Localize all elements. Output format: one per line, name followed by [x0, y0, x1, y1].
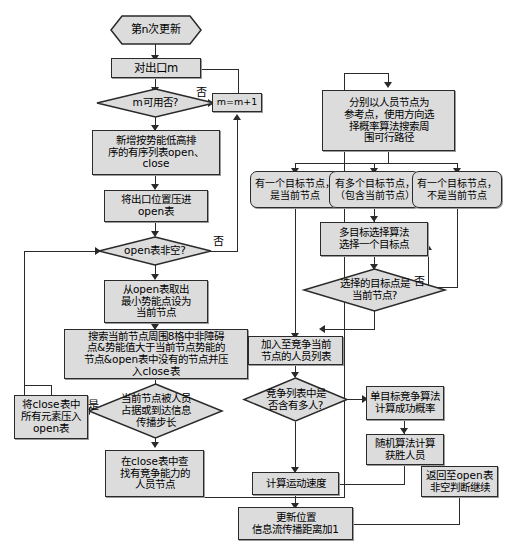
arrowhead: [384, 82, 392, 88]
node-single-prob[interactable]: 单目标竞争算法 计算成功概率: [366, 386, 444, 420]
node-random-winner[interactable]: 随机算法计算 获胜人员: [366, 434, 444, 465]
node-add-to-list[interactable]: 加入至竞争当前 节点的人员列表: [248, 336, 343, 365]
edge-many-no: [295, 422, 296, 472]
edge-dirprob-down: [388, 151, 389, 163]
edge-mincr-up: [238, 69, 239, 95]
edge-nonempty-no: [209, 251, 238, 252]
node-open-nonempty[interactable]: open表非空?: [98, 236, 212, 266]
node-many-people[interactable]: 竞争列表中是 否含有多人?: [243, 377, 348, 422]
edge-onenot-down: [457, 208, 458, 288]
node-multi-select[interactable]: 多目标选择算法 选择一个目标点: [320, 222, 428, 256]
edge-pushclose-up: [51, 385, 52, 395]
node-m-increment[interactable]: m=m+1: [212, 93, 262, 112]
edge-find-to-dirprob: [204, 497, 345, 498]
edge-onenot-join: [428, 251, 429, 252]
edge-mincr-up2: [196, 69, 239, 70]
flowchart-canvas: 第n次更新 对出口m m可用否? m=m+1 新增按势能低高排 序的有序列表op…: [0, 0, 505, 551]
node-calc-speed[interactable]: 计算运动速度: [252, 472, 339, 495]
node-many-people-label: 竞争列表中是 否含有多人?: [243, 377, 348, 422]
node-push-close[interactable]: 将close表中 所有元素压入 open表: [14, 395, 88, 439]
node-update-position[interactable]: 更新位置 信息流传播距离加1: [238, 507, 353, 540]
edge-label-nonempty-no: 否: [213, 232, 224, 248]
node-open-nonempty-label: open表非空?: [98, 236, 212, 266]
edge-nonempty-no2: [237, 120, 238, 252]
edge-random-down: [404, 465, 405, 485]
node-pop-min[interactable]: 从open表取出 最小势能点设为 当前节点: [104, 280, 208, 323]
node-occupied-label: 当前节点被人员 占据或到达信息 传播步长: [88, 383, 223, 439]
node-start[interactable]: 第n次更新: [110, 15, 202, 45]
node-one-target-not-current[interactable]: 有一个目标节点， 不是当前节点: [412, 171, 502, 208]
edge-label-occupied-yes: 是: [88, 396, 99, 412]
node-new-lists[interactable]: 新增按势能低高排 序的有序列表open、 close: [92, 130, 220, 175]
node-occupied[interactable]: 当前节点被人员 占据或到达信息 传播步长: [88, 383, 223, 439]
node-find-compete[interactable]: 在close表中查 找有竞争能力的 人员节点: [105, 450, 204, 497]
node-start-label: 第n次更新: [110, 15, 202, 45]
node-dir-prob[interactable]: 分别以人员节点为 参考点，使用方向选 择概率算法搜索周 围可行路径: [322, 90, 455, 151]
edge-pushclose-up2: [24, 385, 52, 386]
arrowhead: [233, 114, 241, 120]
edge-loop-into-nonempty: [24, 251, 98, 252]
edge-loop-vert: [24, 251, 25, 411]
node-back-to-open[interactable]: 返回至open表 非空判断继续: [421, 466, 498, 497]
edge-dirprob-split: [295, 163, 458, 164]
node-multi-target[interactable]: 有多个目标节点， （包含当前节点）: [329, 171, 420, 208]
edge-update-up: [459, 497, 460, 525]
edge-onetarget-down: [295, 208, 296, 338]
edge-selcur-yes2: [323, 329, 375, 330]
arrowhead: [151, 442, 159, 448]
arrowhead: [319, 325, 325, 333]
node-exit-m[interactable]: 对出口m: [111, 58, 201, 78]
node-push-exit[interactable]: 将出口位置压进 open表: [104, 190, 208, 222]
edge-label-usable-no: 否: [196, 83, 207, 99]
edge-label-selcur-no: 否: [414, 272, 425, 288]
node-search-8[interactable]: 搜索当前节点周围8格中非障碍 点&势能值大于当前节点势能的 节点&open表中没…: [64, 329, 248, 379]
node-one-target-current[interactable]: 有一个目标节点， 是当前节点: [250, 171, 340, 208]
edge-update-right: [352, 524, 460, 525]
edge-find-to-dirprob3: [344, 73, 389, 74]
